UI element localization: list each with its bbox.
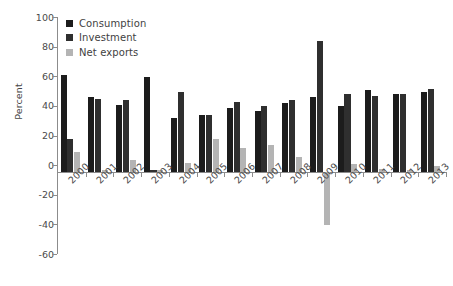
square-icon xyxy=(66,34,73,41)
bar-group xyxy=(227,17,247,254)
bar-group xyxy=(199,17,219,254)
bar-group xyxy=(144,17,164,254)
bar-chart: Percent 100806040200-20-40-60 2000200120… xyxy=(0,0,453,286)
legend-label: Consumption xyxy=(79,18,146,29)
bar-consumption xyxy=(171,118,177,171)
bar-investment xyxy=(178,92,184,172)
bar-investment xyxy=(261,106,267,171)
bar-consumption xyxy=(255,111,261,172)
bar-group xyxy=(310,17,330,254)
legend-item: Investment xyxy=(66,31,146,46)
bar-group xyxy=(282,17,302,254)
bar-investment xyxy=(344,94,350,171)
legend-label: Net exports xyxy=(79,47,138,58)
bar-investment xyxy=(123,100,129,171)
bar-consumption xyxy=(393,94,399,171)
caption-strip xyxy=(0,278,453,286)
bar-consumption xyxy=(144,77,150,172)
y-tick-mark xyxy=(52,254,57,255)
square-icon xyxy=(66,49,73,56)
bar-investment xyxy=(234,102,240,172)
bar-consumption xyxy=(365,90,371,171)
bar-group xyxy=(393,17,413,254)
bar-consumption xyxy=(421,92,427,172)
bar-investment xyxy=(317,41,323,171)
bar-group xyxy=(365,17,385,254)
bar-investment xyxy=(428,89,434,172)
square-icon xyxy=(66,20,73,27)
bar-consumption xyxy=(199,115,205,171)
bar-consumption xyxy=(61,75,67,171)
bar-consumption xyxy=(88,97,94,171)
legend-item: Net exports xyxy=(66,45,146,60)
bar-consumption xyxy=(310,97,316,171)
bar-investment xyxy=(400,94,406,171)
bar-investment xyxy=(372,96,378,172)
x-axis-labels: 2000200120022003200420052006200720082009… xyxy=(58,178,446,218)
bar-group xyxy=(421,17,441,254)
chart-legend: ConsumptionInvestmentNet exports xyxy=(66,16,146,60)
bar-investment xyxy=(206,115,212,171)
bar-group xyxy=(171,17,191,254)
bar-investment xyxy=(289,100,295,171)
bar-investment xyxy=(67,139,73,172)
bar-investment xyxy=(95,99,101,172)
legend-item: Consumption xyxy=(66,16,146,31)
bar-group xyxy=(255,17,275,254)
y-axis-ticks: 100806040200-20-40-60 xyxy=(0,0,60,286)
legend-label: Investment xyxy=(79,32,137,43)
bar-group xyxy=(338,17,358,254)
bar-consumption xyxy=(116,105,122,172)
bar-consumption xyxy=(338,106,344,171)
bar-consumption xyxy=(227,108,233,172)
bar-consumption xyxy=(282,103,288,171)
